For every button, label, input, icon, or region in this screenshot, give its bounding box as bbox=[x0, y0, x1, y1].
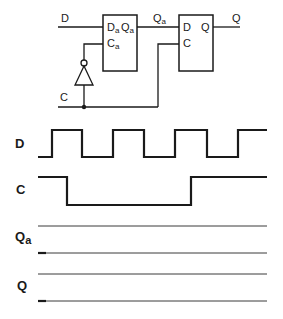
clock-to-latch2-wire bbox=[158, 44, 179, 107]
timing-diagram: D C Qa Q bbox=[15, 130, 267, 301]
latch2-q-pin: Q bbox=[201, 21, 210, 33]
circuit: D Da Qa Ca Qa D Q C Q C bbox=[58, 12, 241, 109]
latch2-c-pin: C bbox=[183, 37, 191, 49]
d-input-label: D bbox=[61, 12, 69, 24]
timing-label-qa: Qa bbox=[15, 229, 32, 246]
waveform-c bbox=[38, 177, 267, 205]
timing-label-d: D bbox=[15, 136, 24, 151]
qa-label: Qa bbox=[153, 12, 167, 26]
junction-dot-icon bbox=[82, 105, 86, 109]
master-slave-flipflop-diagram: D Da Qa Ca Qa D Q C Q C D C bbox=[0, 0, 283, 319]
inverter-triangle-icon bbox=[75, 66, 93, 85]
timing-label-q: Q bbox=[17, 278, 27, 293]
timing-label-c: C bbox=[16, 182, 26, 197]
latch2-d-pin: D bbox=[183, 21, 191, 33]
clock-to-latch1-wire bbox=[84, 44, 103, 60]
waveform-d bbox=[38, 130, 267, 157]
q-output-label: Q bbox=[232, 12, 241, 24]
c-input-label: C bbox=[60, 91, 68, 103]
